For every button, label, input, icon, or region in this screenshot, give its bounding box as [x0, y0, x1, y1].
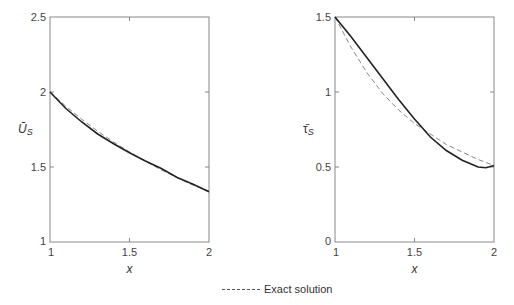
left-ytick-1.5: 1.5: [31, 161, 46, 173]
dashed-line-legend-swatch: [222, 289, 260, 290]
right-xtick-1: 1: [333, 246, 339, 258]
figure: 2.5 2 1.5 1 1 1.5 2 x ŪS 1.5 1 0.5 0 1 1…: [0, 0, 514, 305]
left-ytick-1: 1: [40, 235, 46, 247]
right-xtick-2: 2: [491, 246, 497, 258]
right-ylabel: τ̄S: [303, 122, 314, 137]
left-xlabel: x: [126, 262, 134, 276]
right-xlabel: x: [411, 262, 419, 276]
left-xtick-2: 2: [206, 246, 212, 258]
left-numerical-solution-line: [50, 92, 209, 192]
left-ytick-2: 2: [40, 86, 46, 98]
legend-label-exact-solution: Exact solution: [264, 283, 332, 295]
left-chart: 2.5 2 1.5 1 1 1.5 2 x ŪS: [18, 11, 212, 276]
left-ylabel: ŪS: [18, 122, 33, 137]
right-ylabel-sub: S: [308, 127, 314, 137]
right-plot-frame: [335, 17, 494, 242]
left-ylabel-sub: S: [27, 127, 33, 137]
left-xtick-1: 1: [48, 246, 54, 258]
right-numerical-solution-line: [335, 17, 494, 168]
right-xtick-1.5: 1.5: [407, 246, 422, 258]
right-exact-solution-line: [335, 17, 494, 166]
right-ytick-0: 0: [325, 235, 331, 247]
right-ticks: [335, 17, 494, 242]
right-ytick-1.5: 1.5: [316, 11, 331, 23]
left-plot-frame: [50, 17, 209, 242]
left-ylabel-main: Ū: [18, 122, 27, 136]
right-ytick-0.5: 0.5: [316, 161, 331, 173]
left-ticks: [50, 17, 209, 242]
legend: Exact solution: [222, 283, 332, 295]
left-exact-solution-line: [50, 92, 209, 191]
right-chart: 1.5 1 0.5 0 1 1.5 2 x τ̄S: [303, 11, 497, 276]
right-ytick-1: 1: [325, 86, 331, 98]
left-ytick-2.5: 2.5: [31, 11, 46, 23]
left-xtick-1.5: 1.5: [122, 246, 137, 258]
